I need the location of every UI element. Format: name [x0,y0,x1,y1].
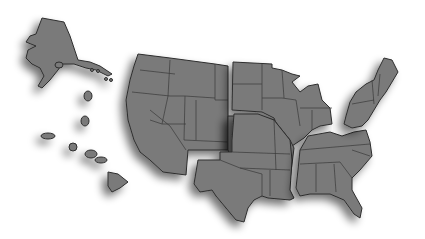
region-west [126,54,228,175]
map-svg [0,0,425,239]
region-southeast [296,130,372,218]
us-map-illustration: Grayscale illustration of the United Sta… [0,0,425,239]
region-northeast [344,58,398,128]
region-alaska [26,18,113,88]
region-hawaii [41,91,128,192]
